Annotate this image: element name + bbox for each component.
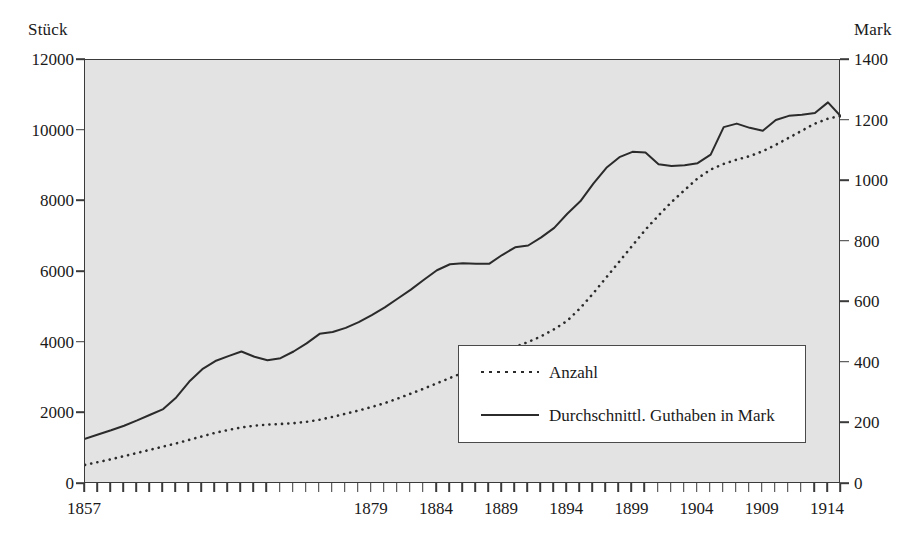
x-axis-tick-label: 1857 (67, 500, 101, 517)
y2-axis-tick-mark (840, 179, 849, 181)
x-axis-tick-mark (109, 483, 111, 492)
y2-axis-tick-mark (840, 482, 849, 484)
y2-axis-tick-mark (840, 58, 849, 60)
y-axis-tick-mark (76, 270, 85, 272)
x-axis-tick-mark (579, 483, 581, 492)
x-axis-tick-mark (487, 483, 489, 492)
x-axis-tick-mark (122, 483, 124, 492)
x-axis-tick-mark (331, 483, 333, 492)
y2-axis-tick-label: 600 (854, 293, 914, 310)
x-axis-tick-mark (161, 483, 163, 492)
x-axis-tick-mark (266, 483, 268, 492)
x-axis-tick-mark (800, 483, 802, 492)
x-axis-tick-mark (396, 483, 398, 492)
x-axis-tick-mark (187, 483, 189, 492)
x-axis-tick-mark (148, 483, 150, 492)
x-axis-tick-mark (253, 483, 255, 492)
x-axis-tick-label: 1909 (745, 500, 779, 517)
x-axis-tick-label: 1884 (419, 500, 453, 517)
x-axis-tick-mark (657, 483, 659, 492)
legend-item-anzahl: Anzahl (481, 361, 598, 383)
x-axis-tick-mark (474, 483, 476, 492)
x-axis-tick-mark (344, 483, 346, 492)
legend-label-anzahl: Anzahl (549, 364, 598, 381)
y2-axis-tick-label: 400 (854, 353, 914, 370)
x-axis-tick-mark (631, 483, 633, 492)
x-axis-tick-mark (513, 483, 515, 492)
legend-label-guthaben: Durchschnittl. Guthaben in Mark (549, 407, 775, 424)
x-axis-tick-mark (201, 483, 203, 492)
x-axis-tick-mark (422, 483, 424, 492)
y-axis-tick-label: 8000 (0, 192, 74, 209)
y2-axis-tick-label: 200 (854, 414, 914, 431)
y-axis-tick-label: 6000 (0, 263, 74, 280)
x-axis-tick-mark (774, 483, 776, 492)
y-axis-tick-label: 2000 (0, 404, 74, 421)
y-axis-tick-label: 0 (0, 475, 74, 492)
x-axis-tick-mark (318, 483, 320, 492)
x-axis-tick-mark (839, 483, 841, 492)
x-axis-tick-label: 1894 (549, 500, 583, 517)
x-axis-tick-mark (409, 483, 411, 492)
y-axis-tick-label: 4000 (0, 333, 74, 350)
y2-axis-tick-label: 1000 (854, 172, 914, 189)
y2-axis-tick-label: 1400 (854, 51, 914, 68)
legend: Anzahl Durchschnittl. Guthaben in Mark (458, 345, 806, 443)
y-axis-tick-label: 10000 (0, 121, 74, 138)
left-axis-title: Stück (28, 20, 68, 40)
right-axis-title: Mark (854, 20, 892, 40)
y2-axis-tick-label: 800 (854, 232, 914, 249)
x-axis-tick-mark (735, 483, 737, 492)
y2-axis-tick-mark (840, 300, 849, 302)
x-axis-tick-mark (500, 483, 502, 492)
x-axis-tick-mark (83, 483, 85, 492)
y2-axis-tick-mark (840, 361, 849, 363)
y2-axis-tick-mark (840, 240, 849, 242)
y-axis-tick-mark (76, 58, 85, 60)
x-axis-tick-mark (214, 483, 216, 492)
x-axis-tick-label: 1914 (810, 500, 844, 517)
x-axis-tick-mark (370, 483, 372, 492)
x-axis-tick-label: 1899 (614, 500, 648, 517)
x-axis-tick-mark (618, 483, 620, 492)
x-axis-tick-mark (696, 483, 698, 492)
x-axis-tick-mark (96, 483, 98, 492)
x-axis-tick-mark (539, 483, 541, 492)
x-axis-tick-mark (526, 483, 528, 492)
x-axis-tick-mark (292, 483, 294, 492)
x-axis-tick-mark (435, 483, 437, 492)
x-axis-tick-label: 1879 (354, 500, 388, 517)
x-axis-tick-mark (592, 483, 594, 492)
x-axis-tick-mark (761, 483, 763, 492)
x-axis-tick-label: 1904 (680, 500, 714, 517)
x-axis-tick-mark (174, 483, 176, 492)
x-axis-tick-mark (279, 483, 281, 492)
legend-swatch-dotted-icon (481, 366, 539, 378)
x-axis-tick-label: 1889 (484, 500, 518, 517)
x-axis-tick-mark (135, 483, 137, 492)
x-axis-tick-mark (722, 483, 724, 492)
x-axis-tick-mark (826, 483, 828, 492)
legend-item-guthaben: Durchschnittl. Guthaben in Mark (481, 404, 775, 426)
chart-container: Stück Mark 020004000600080001000012000 0… (0, 0, 914, 542)
y2-axis-tick-mark (840, 422, 849, 424)
y2-axis-tick-label: 0 (854, 475, 914, 492)
x-axis-tick-mark (670, 483, 672, 492)
y-axis-tick-label: 12000 (0, 51, 74, 68)
x-axis-tick-mark (305, 483, 307, 492)
x-axis-tick-mark (240, 483, 242, 492)
x-axis-tick-mark (357, 483, 359, 492)
x-axis-tick-mark (448, 483, 450, 492)
x-axis-tick-mark (683, 483, 685, 492)
y-axis-tick-mark (76, 341, 85, 343)
y2-axis-tick-mark (840, 119, 849, 121)
x-axis-tick-mark (565, 483, 567, 492)
y-axis-tick-mark (76, 412, 85, 414)
x-axis-tick-mark (787, 483, 789, 492)
x-axis-tick-mark (813, 483, 815, 492)
x-axis-tick-mark (227, 483, 229, 492)
legend-swatch-solid-icon (481, 409, 539, 421)
x-axis-tick-mark (552, 483, 554, 492)
x-axis-tick-mark (748, 483, 750, 492)
x-axis-tick-mark (709, 483, 711, 492)
